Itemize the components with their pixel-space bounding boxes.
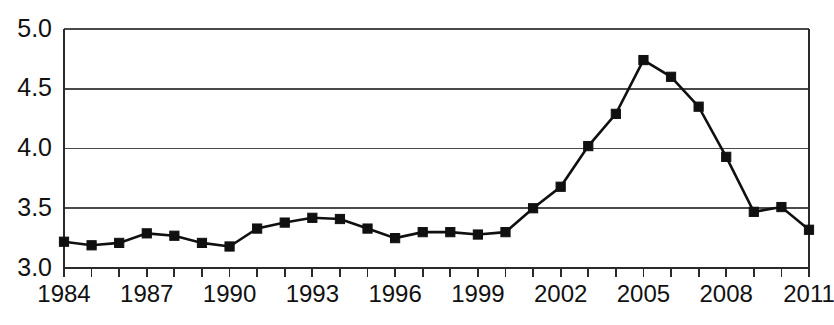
x-axis-tick-label: 1993 <box>286 280 339 307</box>
data-point-marker <box>584 142 593 151</box>
gridlines-group <box>64 29 809 208</box>
y-axis-tick-label: 5.0 <box>17 14 52 42</box>
x-axis-tick-labels: 1984198719901993199619992002200520082011 <box>37 280 834 307</box>
data-point-marker <box>170 231 179 240</box>
x-axis-tickmarks <box>64 268 809 277</box>
x-axis-tick-label: 1996 <box>368 280 421 307</box>
data-point-marker <box>722 152 731 161</box>
x-axis-tick-label: 1984 <box>37 280 90 307</box>
data-point-marker <box>639 55 648 64</box>
line-chart: 5.04.54.03.53.0 198419871990199319961999… <box>0 0 834 325</box>
data-point-marker <box>391 234 400 243</box>
data-point-marker <box>418 228 427 237</box>
data-point-marker <box>804 225 813 234</box>
data-point-marker <box>749 207 758 216</box>
data-point-marker <box>363 224 372 233</box>
y-axis-tick-label: 4.5 <box>17 73 52 101</box>
chart-canvas: 5.04.54.03.53.0 198419871990199319961999… <box>0 0 834 325</box>
y-axis-tick-label: 4.0 <box>17 133 52 161</box>
data-point-marker <box>197 238 206 247</box>
data-point-marker <box>253 224 262 233</box>
data-point-marker <box>473 230 482 239</box>
data-series-markers <box>59 55 813 251</box>
data-point-marker <box>501 228 510 237</box>
data-point-marker <box>528 204 537 213</box>
x-axis-tick-label: 2008 <box>700 280 753 307</box>
data-point-marker <box>611 109 620 118</box>
data-point-marker <box>777 202 786 211</box>
data-point-marker <box>666 72 675 81</box>
data-point-marker <box>225 242 234 251</box>
y-axis-tick-label: 3.0 <box>17 253 52 281</box>
x-axis-tick-label: 1990 <box>203 280 256 307</box>
data-point-marker <box>59 237 68 246</box>
data-point-marker <box>87 241 96 250</box>
data-point-marker <box>142 229 151 238</box>
data-point-marker <box>556 182 565 191</box>
data-point-marker <box>115 238 124 247</box>
data-point-marker <box>308 213 317 222</box>
data-point-marker <box>280 218 289 227</box>
y-axis-tick-labels: 5.04.54.03.53.0 <box>17 14 52 281</box>
x-axis-tick-label: 1987 <box>120 280 173 307</box>
x-axis-tick-label: 2011 <box>783 280 834 307</box>
y-axis-tick-label: 3.5 <box>17 193 52 221</box>
data-point-marker <box>694 102 703 111</box>
data-point-marker <box>446 228 455 237</box>
data-point-marker <box>335 214 344 223</box>
x-axis-tick-label: 1999 <box>451 280 504 307</box>
x-axis-tick-label: 2002 <box>534 280 587 307</box>
x-axis-tick-label: 2005 <box>617 280 670 307</box>
